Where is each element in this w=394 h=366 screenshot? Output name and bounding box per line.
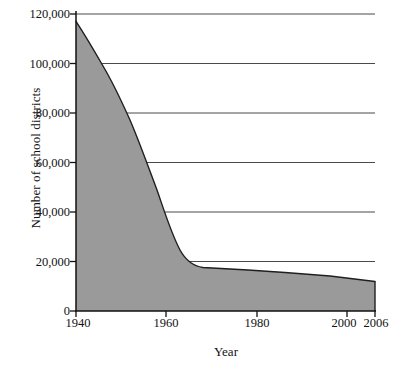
y-tick-label-120000: 120,000 [10, 8, 70, 20]
area-fill [76, 21, 375, 311]
x-tick-label-1940: 1940 [48, 316, 108, 331]
y-tick-label-120000-wrap: 120,000 [8, 8, 70, 20]
y-axis-ticks [70, 14, 76, 311]
area-chart: 120,000 100,000 80,000 60,000 40,000 20,… [0, 0, 394, 366]
x-tick-label-1960: 1960 [136, 316, 196, 331]
x-axis-title: Year [76, 344, 376, 360]
x-tick-label-2006: 2006 [346, 316, 394, 331]
x-tick-label-1980: 1980 [227, 316, 287, 331]
y-axis-title: Number of school districts [28, 58, 44, 258]
